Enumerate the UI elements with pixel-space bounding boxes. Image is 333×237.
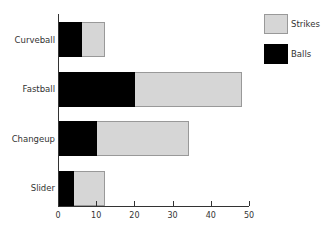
x-tick xyxy=(249,201,250,206)
x-tick xyxy=(211,201,212,206)
bar-curveball xyxy=(59,22,105,57)
x-tick xyxy=(134,201,135,206)
bar-segment-balls xyxy=(59,171,74,206)
bar-segment-strikes xyxy=(82,22,105,57)
bar-segment-strikes xyxy=(135,72,242,107)
stacked-bar-chart: Curveball Fastball Changeup Slider 01020… xyxy=(0,0,333,237)
x-tick xyxy=(96,201,97,206)
strikes-swatch xyxy=(264,14,288,34)
x-tick-label: 0 xyxy=(55,211,60,220)
x-tick-label: 20 xyxy=(129,211,139,220)
bar-segment-strikes xyxy=(97,121,189,156)
x-tick-label: 30 xyxy=(168,211,178,220)
bar-segment-balls xyxy=(59,121,97,156)
bar-segment-balls xyxy=(59,22,82,57)
legend-item-balls: Balls xyxy=(264,44,311,64)
balls-swatch xyxy=(264,44,288,64)
x-tick-label: 40 xyxy=(206,211,216,220)
legend-label-balls: Balls xyxy=(291,49,311,59)
category-label-changeup: Changeup xyxy=(12,134,55,144)
bar-fastball xyxy=(59,72,242,107)
bar-segment-strikes xyxy=(74,171,105,206)
bar-slider xyxy=(59,171,105,206)
category-label-slider: Slider xyxy=(31,183,55,193)
x-tick-label: 10 xyxy=(91,211,101,220)
bar-changeup xyxy=(59,121,189,156)
legend-item-strikes: Strikes xyxy=(264,14,320,34)
category-label-fastball: Fastball xyxy=(23,84,55,94)
category-label-curveball: Curveball xyxy=(15,35,55,45)
legend-label-strikes: Strikes xyxy=(291,19,320,29)
bar-segment-balls xyxy=(59,72,135,107)
x-tick xyxy=(58,201,59,206)
x-tick xyxy=(173,201,174,206)
x-tick-label: 50 xyxy=(244,211,254,220)
x-axis xyxy=(58,206,249,207)
